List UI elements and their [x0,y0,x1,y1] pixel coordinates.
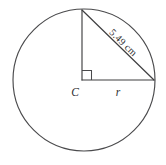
geometry-diagram: C r 5.49 cm [0,0,166,165]
radius-label: r [116,86,121,98]
hypotenuse-measure-label: 5.49 cm [107,27,139,59]
right-angle-square-icon [82,71,92,81]
center-point-label: C [71,86,79,98]
geometry-canvas: C r 5.49 cm [0,0,166,165]
hypotenuse-line [82,10,154,80]
